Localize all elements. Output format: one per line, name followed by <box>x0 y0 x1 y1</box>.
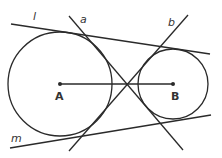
tangent-line-l <box>11 24 210 54</box>
label-point-b: B <box>171 90 179 103</box>
center-point-a <box>58 82 62 86</box>
label-m: m <box>11 132 22 145</box>
label-a: a <box>80 13 87 26</box>
label-l: l <box>33 10 36 23</box>
tangent-lines-diagram: l a b m A B <box>0 0 222 158</box>
label-b: b <box>168 16 175 29</box>
center-point-b <box>171 82 175 86</box>
tangent-line-a <box>69 16 183 150</box>
label-point-a: A <box>55 90 64 103</box>
